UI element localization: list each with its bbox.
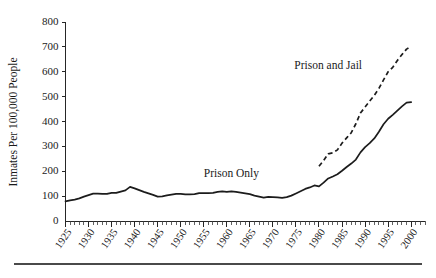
y-axis: 0100200300400500600700800 xyxy=(42,15,66,226)
series-annotations: Prison OnlyPrison and Jail xyxy=(204,59,362,180)
x-axis: 1925193019351940194519501955196019651970… xyxy=(53,221,425,250)
x-axis-tick-label: 1930 xyxy=(76,227,97,251)
y-axis-tick-label: 400 xyxy=(42,115,59,127)
x-axis-tick-label: 1935 xyxy=(99,227,120,251)
y-axis-tick-label: 700 xyxy=(42,40,59,52)
figure-container: 0100200300400500600700800 19251930193519… xyxy=(0,0,436,278)
x-axis-tick-label: 1960 xyxy=(214,227,235,251)
x-axis-tick-label: 1985 xyxy=(329,227,350,251)
y-axis-tick-label: 300 xyxy=(42,139,59,151)
x-axis-tick-label: 1980 xyxy=(306,227,327,251)
x-axis-tick-label: 1945 xyxy=(145,227,166,251)
x-axis-tick-label: 1950 xyxy=(168,227,189,251)
x-axis-tick-label: 1990 xyxy=(352,227,373,251)
x-axis-tick-label: 1975 xyxy=(283,227,304,251)
x-axis-tick-label: 1940 xyxy=(122,227,143,251)
y-axis-title: Inmates Per 100,000 People xyxy=(7,57,20,186)
x-axis-tick-label: 1995 xyxy=(375,227,396,251)
series-annotation-label: Prison Only xyxy=(204,167,260,180)
incarceration-rate-line-chart: 0100200300400500600700800 19251930193519… xyxy=(0,0,436,278)
x-axis-tick-label: 2000 xyxy=(398,227,419,251)
y-axis-tick-label: 600 xyxy=(42,65,59,77)
x-axis-tick-label: 1965 xyxy=(237,227,258,251)
x-axis-tick-label: 1955 xyxy=(191,227,212,251)
y-axis-tick-label: 0 xyxy=(53,214,59,226)
series-annotation-label: Prison and Jail xyxy=(294,59,362,71)
x-axis-tick-label: 1970 xyxy=(260,227,281,251)
y-axis-tick-label: 500 xyxy=(42,90,59,102)
y-axis-tick-label: 800 xyxy=(42,15,59,27)
y-axis-tick-label: 200 xyxy=(42,164,59,176)
x-axis-tick-label: 1925 xyxy=(53,227,74,251)
y-axis-tick-label: 100 xyxy=(42,189,59,201)
